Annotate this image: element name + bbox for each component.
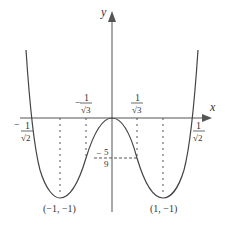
label-neg-five-ninths: − 5 9 (96, 147, 109, 169)
svg-text:√3: √3 (132, 105, 142, 115)
y-axis-arrow-icon (108, 11, 116, 22)
svg-text:9: 9 (104, 159, 109, 169)
function-graph: y x − 1 √2 1 √2 − 1 √3 1 √3 − 5 9 (−1, −… (0, 0, 229, 227)
label-neg-inv-sqrt2: − 1 √2 (14, 119, 33, 143)
svg-text:5: 5 (104, 147, 109, 157)
x-axis-label: x (209, 100, 216, 114)
svg-text:√2: √2 (21, 133, 30, 143)
svg-text:−: − (14, 119, 20, 130)
label-min-right: (1, −1) (150, 203, 177, 215)
svg-text:1: 1 (196, 120, 201, 131)
label-pos-inv-sqrt2: 1 √2 (193, 120, 205, 143)
svg-text:1: 1 (25, 120, 30, 131)
svg-text:1: 1 (135, 92, 140, 103)
svg-text:√2: √2 (193, 133, 202, 143)
label-neg-inv-sqrt3: − 1 √3 (75, 92, 92, 115)
label-pos-inv-sqrt3: 1 √3 (131, 92, 143, 115)
x-axis-arrow-icon (202, 114, 212, 122)
svg-text:1: 1 (84, 92, 89, 103)
svg-text:√3: √3 (81, 105, 91, 115)
label-min-left: (−1, −1) (43, 203, 76, 215)
y-axis-label: y (100, 5, 107, 19)
svg-text:−: − (96, 148, 101, 158)
